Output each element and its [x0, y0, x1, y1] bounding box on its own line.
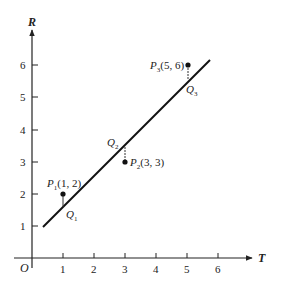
regression-line — [43, 60, 210, 227]
x-ticks: 1 2 3 4 5 6 — [60, 253, 221, 275]
svg-text:4: 4 — [153, 263, 159, 275]
y-axis-label: R — [27, 15, 36, 29]
least-squares-diagram: R T O 1 2 3 4 5 6 1 2 3 4 5 6 P1( — [0, 0, 284, 293]
svg-text:2: 2 — [91, 263, 97, 275]
svg-text:5: 5 — [20, 91, 26, 103]
svg-text:6: 6 — [215, 263, 221, 275]
svg-text:Q3: Q3 — [186, 83, 198, 98]
svg-text:3: 3 — [20, 156, 26, 168]
svg-text:3: 3 — [122, 263, 128, 275]
svg-text:5: 5 — [184, 263, 190, 275]
svg-text:4: 4 — [20, 124, 26, 136]
svg-text:P2(3, 3): P2(3, 3) — [129, 156, 164, 171]
y-ticks: 1 2 3 4 5 6 — [20, 59, 38, 232]
svg-text:1: 1 — [60, 263, 66, 275]
svg-text:2: 2 — [20, 188, 26, 200]
svg-text:6: 6 — [20, 59, 26, 71]
point-p1: P1(1, 2) Q1 — [46, 177, 81, 223]
x-axis-label: T — [258, 251, 266, 265]
svg-text:Q1: Q1 — [66, 208, 78, 223]
origin-label: O — [20, 261, 29, 275]
svg-text:1: 1 — [20, 220, 26, 232]
svg-text:Q2: Q2 — [107, 136, 119, 151]
svg-text:P1(1, 2): P1(1, 2) — [46, 177, 81, 192]
svg-text:P3(5, 6): P3(5, 6) — [149, 59, 184, 74]
